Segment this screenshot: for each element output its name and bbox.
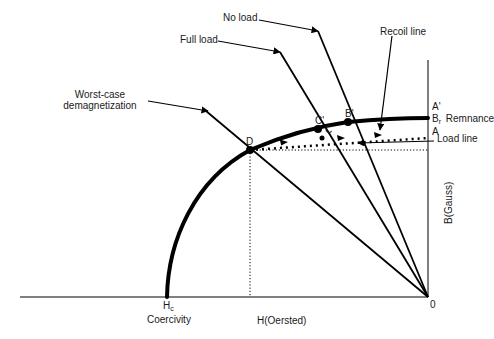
full-load-label: Full load	[180, 35, 218, 45]
point-b-prime-label: B'	[345, 109, 354, 119]
worst-case-load-line	[206, 111, 428, 297]
point-a-prime-label: A'	[432, 102, 441, 112]
recoil-arrow-3	[374, 132, 382, 138]
hc-subscript: c	[170, 305, 174, 312]
recoil-arrow-2	[337, 135, 345, 141]
load-line-label: Load line	[437, 134, 478, 144]
no-load-callout-arrow	[259, 20, 318, 31]
no-load-line	[318, 31, 428, 297]
origin-label: 0	[430, 300, 436, 310]
worst-case-callout-arrow	[148, 101, 208, 111]
recoil-line-label: Recoil line	[380, 27, 426, 37]
worst-case-label-line2: demagnetization	[50, 101, 150, 111]
point-c-prime-label: C'	[315, 116, 324, 126]
x-axis-label: H(Oersted)	[257, 316, 306, 326]
recoil-callout-line	[380, 36, 392, 130]
worst-case-label: Worst-case demagnetization	[50, 90, 150, 111]
coercivity-caption: Coercivity	[147, 315, 191, 325]
point-b-prime	[344, 118, 352, 126]
remanence-label: Br Remnance	[432, 114, 494, 125]
full-load-line	[280, 52, 428, 297]
point-c	[320, 136, 325, 141]
point-d	[246, 146, 254, 154]
point-c-label: C	[325, 125, 332, 135]
br-subscript: r	[439, 118, 441, 125]
point-c-prime	[314, 125, 322, 133]
full-load-callout-arrow	[218, 41, 280, 52]
point-d-label: D	[246, 137, 253, 147]
worst-case-label-line1: Worst-case	[50, 90, 150, 100]
point-a-label: A	[432, 127, 439, 137]
coercivity-symbol: Hc	[163, 301, 174, 312]
no-load-label: No load	[223, 13, 257, 23]
remanence-caption: Remnance	[446, 113, 494, 124]
demagnetization-curve	[167, 118, 428, 297]
recoil-arrow-1	[280, 139, 288, 146]
br-symbol: B	[432, 113, 439, 124]
y-axis-label: B(Gauss)	[444, 182, 454, 224]
load-line-callout-arrow	[358, 141, 434, 143]
